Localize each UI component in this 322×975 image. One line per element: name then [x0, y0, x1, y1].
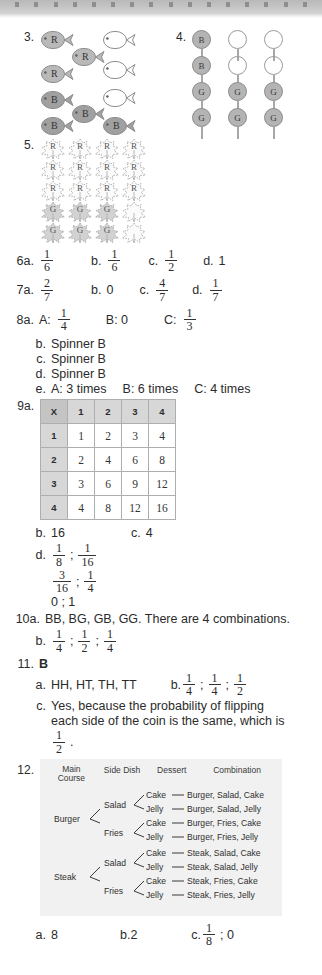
answer-7c: c. 4 7: [139, 277, 170, 302]
leaf-token-r: R: [40, 138, 66, 160]
tree-dessert-jelly-7: Jelly: [146, 890, 164, 900]
fraction: 1 2: [53, 729, 65, 754]
separator: ;: [226, 678, 229, 692]
question-3-number: 3.: [0, 30, 40, 44]
answer-12-row: 12. Main Course Side Dish Dessert Combin…: [0, 759, 322, 916]
answer-11c-row-3: 1 2 .: [0, 729, 322, 754]
binding-hole: [130, 2, 134, 7]
table-cell: 9: [122, 472, 149, 496]
separator: ;: [200, 678, 203, 692]
fish-label: R: [82, 50, 89, 64]
undefined: [134, 853, 144, 863]
separator: ;: [95, 634, 98, 648]
fraction: 1 4: [58, 307, 70, 332]
binding-hole: [303, 2, 307, 7]
answer-11c-line2: each side of the coin is the same, which…: [51, 714, 284, 728]
undefined: [90, 877, 100, 881]
leaf-label: R: [40, 162, 66, 172]
leaf-token-blank: [121, 222, 147, 244]
answer-6b-key: b.: [91, 254, 101, 268]
undefined: [134, 823, 144, 833]
binding-hole: [73, 2, 77, 7]
leaf-token-r: R: [67, 138, 93, 160]
fish-token-blank: [102, 60, 136, 80]
answer-7a-value: 2 7: [39, 277, 55, 302]
fish-label: B: [113, 119, 120, 133]
binding-hole: [226, 2, 230, 7]
balloon-token-g: G: [228, 108, 250, 140]
leaf-label: G: [94, 204, 120, 214]
table-cell: 16: [149, 496, 176, 520]
table-cell: 4: [95, 448, 122, 472]
leaf-label: R: [67, 162, 93, 172]
leaf-token-r: R: [40, 159, 66, 181]
table-cell: 4: [149, 424, 176, 448]
answer-9d-value-3: 0 ; 1: [51, 595, 75, 609]
question-5-number: 5.: [0, 138, 40, 152]
binding-hole: [34, 2, 38, 7]
balloon-circle: [228, 30, 247, 49]
answer-9b-value: 16: [51, 526, 65, 540]
fraction: 4 7: [156, 277, 168, 302]
answer-12c-key: c.: [191, 928, 201, 942]
balloon-circle: [264, 56, 283, 75]
binding-hole: [284, 2, 288, 7]
answer-8e-key: e.: [0, 382, 51, 396]
undefined: [134, 833, 144, 837]
fish-token-blank: [102, 88, 136, 108]
question-3-4-row: 3. RRRBBBB 4. BBGGGGGG: [0, 30, 322, 134]
answer-10b-row: b. 1 4 ; 1 2 ; 1 4: [0, 628, 322, 653]
tree-dessert-cake-4: Cake: [146, 848, 166, 858]
leaf-token-blank: [121, 201, 147, 223]
undefined: [134, 795, 144, 805]
answer-9b-key: b.: [0, 526, 51, 540]
answer-12a-key: a.: [0, 928, 51, 942]
table-row: 22468: [41, 448, 176, 472]
fraction: 1 16: [78, 542, 96, 567]
leaf-label: R: [94, 162, 120, 172]
answer-9d-key: d.: [0, 548, 51, 562]
leaf-label: R: [121, 141, 147, 151]
leaf-label: R: [67, 141, 93, 151]
answer-12b-value: 2: [130, 928, 137, 942]
fraction: 1 4: [104, 628, 116, 653]
tree-diagram-svg: BurgerSaladCakeBurger, Salad, CakeJellyB…: [46, 788, 278, 908]
binding-hole: [245, 2, 249, 7]
balloon-label: G: [192, 108, 211, 127]
fraction: 1 4: [84, 569, 96, 594]
leaf-token-g: G: [40, 201, 66, 223]
tree-combination-2: Burger, Fries, Cake: [187, 818, 261, 828]
answer-6a-row: 6a. 1 6 b. 1 6 c. 1 2 d. 1: [0, 248, 322, 273]
fraction: 2 7: [41, 277, 53, 302]
answer-8e-b: B: 6 times: [123, 382, 179, 396]
tree-dessert-jelly-3: Jelly: [146, 832, 164, 842]
answer-key-page: 3. RRRBBBB 4. BBGGGGGG 5. RRRRRRRRRRRRGG…: [0, 18, 322, 948]
balloon-circle: [264, 30, 283, 49]
table-cell: 12: [149, 472, 176, 496]
leaf-label: R: [40, 141, 66, 151]
leaf-token-g: G: [94, 222, 120, 244]
answer-11c-line1: Yes, because the probability of flipping: [51, 699, 264, 713]
balloon-label: G: [228, 82, 247, 101]
tree-header-combination: Combination: [196, 765, 278, 784]
balloon-token-g: G: [264, 108, 286, 140]
answer-7d-key: d.: [192, 283, 202, 297]
separator: ;: [76, 575, 79, 589]
fraction-denominator: 6: [41, 260, 53, 273]
answer-6d: d. 1: [203, 254, 225, 268]
answer-6c: c. 1 2: [148, 248, 179, 273]
period: .: [70, 735, 73, 749]
tree-combination-6: Steak, Fries, Cake: [187, 876, 258, 886]
answer-10b-key: b.: [0, 634, 51, 648]
answer-8d-key: d.: [0, 367, 51, 381]
leaf-label: G: [67, 204, 93, 214]
leaf-token-r: R: [121, 180, 147, 202]
answer-8c-key: c.: [0, 352, 51, 366]
answer-6b: b. 1 6: [91, 248, 122, 273]
leaf-label: R: [94, 183, 120, 193]
table-row-header: 4: [41, 496, 68, 520]
answer-9c-value: 4: [146, 526, 153, 540]
answer-8d-value: Spinner B: [51, 367, 106, 381]
leaf-label: G: [40, 225, 66, 235]
tree-side-dish-salad-0: Salad: [104, 800, 126, 810]
